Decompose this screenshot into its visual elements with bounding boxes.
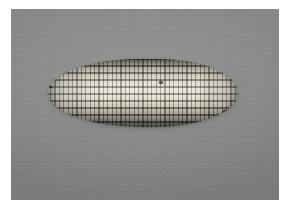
corn-cob (48, 59, 238, 127)
photo-frame (0, 0, 284, 205)
kernel-row-grid (48, 59, 238, 127)
photograph (11, 9, 279, 200)
blemish-left-tip-dark-kernel (49, 86, 52, 88)
blemish-lower-right-dark-kernel (223, 110, 228, 114)
blemish-center-dark-kernel (159, 81, 163, 84)
